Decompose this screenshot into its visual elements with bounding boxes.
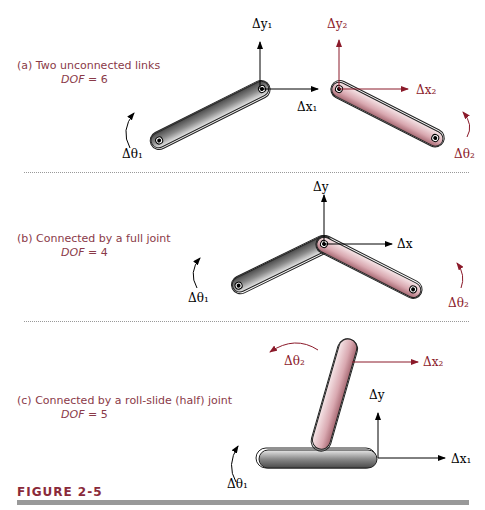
label-dy: Δy (369, 388, 385, 402)
label-dx: Δx (397, 237, 413, 251)
panel-a: Δy₁ Δx₁ Δy₂ Δx₂ Δθ₁ Δθ₂ (122, 17, 475, 161)
panel-c: Δθ₂ Δx₂ Δy Δx₁ Δθ₁ (227, 337, 471, 491)
label-dt2: Δθ₂ (454, 147, 475, 161)
label-dx1: Δx₁ (297, 100, 317, 114)
label-dt2: Δθ₂ (284, 354, 305, 368)
label-dt1: Δθ₁ (227, 477, 248, 491)
label-dy2: Δy₂ (327, 17, 347, 31)
diagram-canvas: Δy₁ Δx₁ Δy₂ Δx₂ Δθ₁ Δθ₂ Δy Δx Δθ₁ Δθ₂ (0, 0, 485, 510)
label-dx2: Δx₂ (416, 83, 436, 97)
link-c-gray (259, 450, 377, 468)
label-dx1: Δx₁ (451, 452, 471, 466)
link-c-pink (309, 337, 360, 454)
label-dy: Δy (313, 180, 329, 194)
label-dx2: Δx₂ (423, 355, 443, 369)
label-dt1: Δθ₁ (122, 147, 143, 161)
link-1-gray (147, 77, 273, 152)
panel-b: Δy Δx Δθ₁ Δθ₂ (188, 180, 469, 310)
label-dy1: Δy₁ (252, 17, 272, 31)
figure-label: FIGURE 2-5 (17, 485, 103, 499)
label-dt2: Δθ₂ (448, 296, 469, 310)
label-dt1: Δθ₁ (188, 291, 209, 305)
figure-rule (17, 500, 469, 505)
